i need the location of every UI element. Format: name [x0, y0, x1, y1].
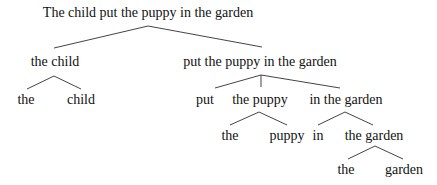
parse-tree: The child put the puppy in the garden th… — [0, 0, 437, 185]
node-np-subject-noun: child — [67, 92, 95, 108]
node-pp-np-det: the — [337, 162, 354, 178]
node-np-subject: the child — [31, 54, 80, 70]
edge-root-np-subject — [54, 26, 148, 48]
edge-pp-np-noun — [375, 146, 403, 159]
edge-pp-np-det — [348, 146, 375, 159]
node-vp: put the puppy in the garden — [183, 54, 337, 70]
node-np-object: the puppy — [232, 92, 288, 108]
edge-np-object-det — [230, 112, 259, 125]
node-pp-prep: in — [313, 128, 324, 144]
node-np-subject-det: the — [17, 92, 34, 108]
edge-np-object-noun — [259, 112, 287, 125]
edge-root-vp — [148, 26, 262, 47]
node-pp: in the garden — [309, 92, 382, 108]
edge-pp-np — [345, 112, 373, 125]
node-pp-np-noun: garden — [385, 162, 423, 178]
edge-vp-pp — [261, 75, 340, 88]
node-pp-np: the garden — [345, 128, 404, 144]
node-np-object-det: the — [221, 128, 238, 144]
node-vp-verb: put — [196, 92, 214, 108]
edge-np-subject-det — [27, 76, 54, 89]
node-root: The child put the puppy in the garden — [43, 5, 253, 21]
edge-np-subject-noun — [54, 76, 81, 89]
node-np-object-noun: puppy — [270, 128, 305, 144]
edge-pp-prep — [318, 112, 345, 125]
edge-vp-verb — [215, 75, 261, 88]
